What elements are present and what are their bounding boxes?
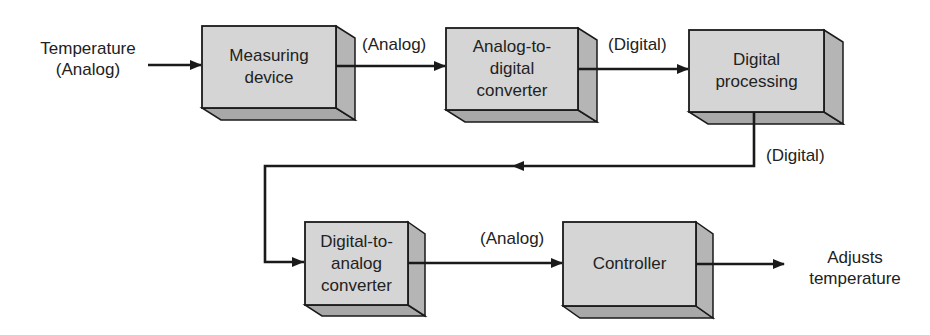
edge-label-adc-to-processing: (Digital) [608,34,667,55]
block-text-line: converter [477,80,548,102]
input-label-line2: (Analog) [28,59,148,80]
output-label: Adjusts temperature [790,247,920,289]
digital-processing-label: Digital processing [689,30,824,112]
block-text-line: Analog-to- [473,36,551,58]
edge-label-measuring-to-adc: (Analog) [362,34,426,55]
block-text-line: converter [321,275,392,297]
edge-label-processing-to-dac: (Digital) [766,145,825,166]
dac-label: Digital-to- analog converter [305,222,408,305]
controller-label: Controller [563,222,696,306]
input-label-line1: Temperature [28,38,148,59]
block-text-line: Digital [733,49,780,71]
output-label-line2: temperature [790,268,920,289]
block-text-line: Controller [593,253,667,275]
feedback-arrowhead-right [292,257,304,267]
block-text-line: processing [715,71,797,93]
block-text-line: analog [331,253,382,275]
block-text-line: Digital-to- [320,231,393,253]
block-text-line: device [244,67,293,89]
output-label-line1: Adjusts [790,247,920,268]
measuring-device-label: Measuring device [202,26,336,108]
block-text-line: digital [490,58,534,80]
input-label: Temperature (Analog) [28,38,148,80]
edge-label-dac-to-controller: (Analog) [480,228,544,249]
block-text-line: Measuring [229,45,308,67]
feedback-arrowhead-left [512,161,524,171]
adc-label: Analog-to- digital converter [446,28,578,110]
